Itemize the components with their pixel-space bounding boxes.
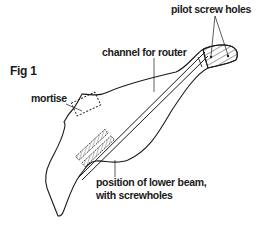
figure-title: Fig 1 (10, 64, 37, 78)
lower-beam-label-line1: position of lower beam, (96, 176, 206, 189)
lower-beam-label: position of lower beam, with screwholes (96, 176, 206, 202)
diagram-canvas: Fig 1 mortise channel for router pilot s… (0, 0, 256, 227)
pilot-holes-label: pilot screw holes (171, 3, 251, 15)
router-channel-line-2 (82, 56, 208, 180)
router-channel-line-1 (78, 52, 205, 178)
pilot-hole-2 (227, 55, 229, 57)
lower-beam-label-line2: with screwholes (96, 189, 206, 202)
channel-label: channel for router (102, 46, 186, 58)
mortise-label: mortise (31, 92, 67, 104)
pilot-hole-1 (210, 56, 212, 58)
mortise-outline (71, 92, 100, 116)
